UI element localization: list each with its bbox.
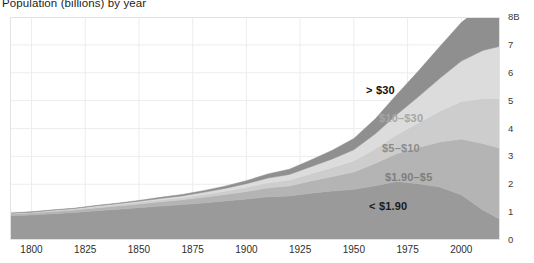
series-label: < $1.90 [369, 200, 407, 212]
stacked-area-series [10, 17, 500, 240]
x-axis-tick-1975: 1975 [396, 244, 418, 256]
x-axis-tick-1800: 1800 [20, 244, 42, 256]
x-axis-tick-1925: 1925 [289, 244, 311, 256]
y-axis-tick-3: 3 [508, 151, 513, 161]
x-axis-tick-1825: 1825 [74, 244, 96, 256]
y-axis-tick-2: 2 [508, 179, 513, 189]
y-axis-tick-5: 5 [508, 96, 513, 106]
y-axis-tick-4: 4 [508, 124, 513, 134]
y-axis-tick-1: 1 [508, 207, 513, 217]
y-axis-tick-8B: 8B [508, 12, 520, 22]
series-label: $1.90–$5 [385, 171, 432, 183]
series-label: $5–$10 [382, 142, 420, 154]
series-label: > $30 [366, 84, 395, 96]
x-axis-tick-1875: 1875 [182, 244, 204, 256]
x-axis-tick-2000: 2000 [450, 244, 472, 256]
plot-area [10, 17, 500, 240]
x-axis-tick-1900: 1900 [235, 244, 257, 256]
chart-root: Population (billions) by year 012345678B… [0, 0, 534, 263]
page-title: Population (billions) by year [2, 0, 146, 10]
series-label: $10–$30 [379, 112, 423, 124]
x-axis-tick-1950: 1950 [343, 244, 365, 256]
x-axis-tick-1850: 1850 [128, 244, 150, 256]
y-axis-tick-6: 6 [508, 68, 513, 78]
y-axis-tick-0: 0 [508, 235, 513, 245]
y-axis-tick-7: 7 [508, 40, 513, 50]
